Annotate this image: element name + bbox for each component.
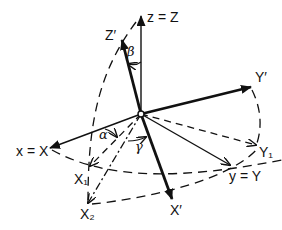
axis-x2 <box>88 114 141 203</box>
label-z: z = Z <box>147 9 179 25</box>
angle-arcs <box>105 62 146 141</box>
axis-yprime <box>141 87 251 114</box>
arc-yprime-to-y1 <box>252 90 260 146</box>
axis-y <box>141 114 230 165</box>
label-gamma: γ <box>135 139 143 154</box>
label-alpha: α <box>99 127 108 142</box>
origin-point <box>138 111 144 117</box>
axis-x1 <box>90 114 141 166</box>
euler-rotation-diagram: z = Z Z′ Y′ x = X X₁ X₂ X′ Y₁ y = Y β α … <box>0 0 282 230</box>
label-xprime: X′ <box>170 202 182 218</box>
axis-x <box>50 114 141 148</box>
axis-y1 <box>141 114 256 145</box>
beta-arc <box>128 62 141 65</box>
label-x: x = X <box>16 143 49 159</box>
label-zprime: Z′ <box>105 27 117 43</box>
label-x2: X₂ <box>80 206 95 222</box>
label-yprime: Y′ <box>255 69 267 85</box>
label-x1: X₁ <box>74 171 88 187</box>
label-beta: β <box>126 44 135 59</box>
label-y1: Y₁ <box>259 144 273 160</box>
label-y: y = Y <box>229 168 262 184</box>
axis-xprime <box>141 114 172 199</box>
